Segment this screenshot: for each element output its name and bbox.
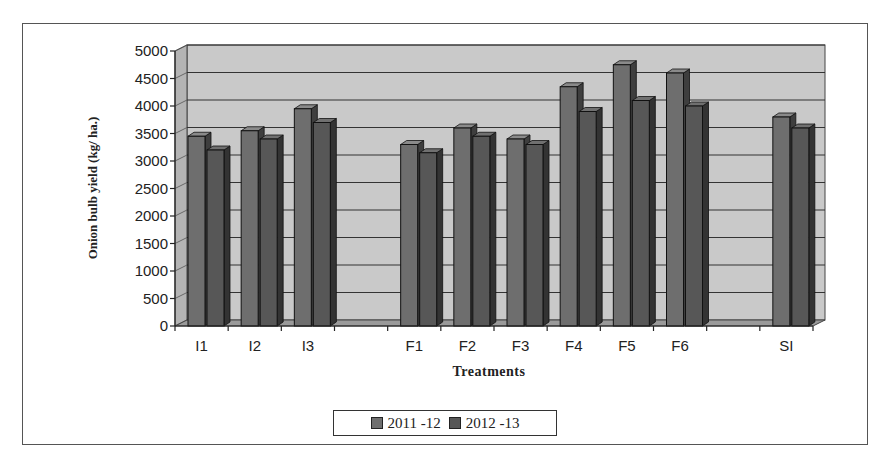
bar <box>792 124 815 326</box>
y-tick-label: 500 <box>143 290 168 307</box>
y-tick-label: 2000 <box>135 207 168 224</box>
y-tick-label: 2500 <box>135 180 168 197</box>
x-tick-label: F5 <box>618 337 636 354</box>
x-tick-label: SI <box>779 337 793 354</box>
legend-label: 2012 -13 <box>466 415 520 432</box>
y-tick-label: 4500 <box>135 70 168 87</box>
bar-chart: 0500100015002000250030003500400045005000… <box>0 0 888 470</box>
y-tick-label: 3500 <box>135 125 168 142</box>
x-tick-label: F3 <box>512 337 530 354</box>
legend-swatch-2012-13 <box>449 417 461 429</box>
bar <box>260 135 283 326</box>
bar <box>526 141 549 327</box>
y-tick-label: 4000 <box>135 97 168 114</box>
bar <box>420 149 443 326</box>
x-axis: I1I2I3F1F2F3F4F5F6SI <box>175 326 813 354</box>
bar <box>632 97 655 327</box>
bar <box>579 108 602 327</box>
x-tick-label: F6 <box>671 337 689 354</box>
legend-item-2012-13: 2012 -13 <box>449 415 520 432</box>
legend-label: 2011 -12 <box>388 415 441 432</box>
legend-swatch-2011-12 <box>371 417 383 429</box>
bar <box>473 132 496 326</box>
y-tick-label: 0 <box>160 317 168 334</box>
legend: 2011 -12 2012 -13 <box>333 410 557 436</box>
legend-item-2011-12: 2011 -12 <box>371 415 441 432</box>
x-tick-label: I2 <box>248 337 261 354</box>
bar <box>686 102 709 326</box>
x-tick-label: F2 <box>459 337 477 354</box>
y-tick-label: 1500 <box>135 235 168 252</box>
x-tick-label: I3 <box>302 337 315 354</box>
x-axis-title: Treatments <box>453 364 526 379</box>
y-axis-title: Onion bulb yield (kg/ ha.) <box>85 117 100 260</box>
x-tick-label: F4 <box>565 337 583 354</box>
y-tick-label: 1000 <box>135 262 168 279</box>
y-tick-label: 3000 <box>135 152 168 169</box>
y-tick-label: 5000 <box>135 42 168 59</box>
x-tick-label: F1 <box>405 337 423 354</box>
x-tick-label: I1 <box>195 337 208 354</box>
bar <box>207 146 230 326</box>
y-axis: 0500100015002000250030003500400045005000 <box>135 42 175 334</box>
bar <box>313 119 336 327</box>
